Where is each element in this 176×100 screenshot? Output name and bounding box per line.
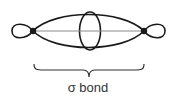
left-nucleus xyxy=(30,28,36,34)
right-nucleus xyxy=(141,28,147,34)
brace xyxy=(34,64,144,77)
sigma-bond-label: σ bond xyxy=(0,80,176,95)
